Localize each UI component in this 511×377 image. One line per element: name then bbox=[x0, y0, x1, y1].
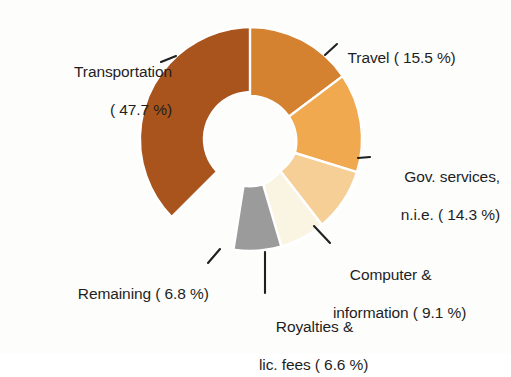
slice-label-transportation-line2: ( 47.7 %) bbox=[24, 100, 172, 119]
slice-label-royalties-lic-fees: Royalties & lic. fees ( 6.6 %) bbox=[259, 298, 368, 377]
slice-label-gov-services: Gov. services, n.i.e. ( 14.3 %) bbox=[360, 148, 500, 262]
slice-label-remaining: Remaining ( 6.8 %) bbox=[61, 265, 209, 322]
slice-label-gov-services-line1: Gov. services, bbox=[404, 168, 500, 185]
slice-label-royalties-lic-fees-line2: lic. fees ( 6.6 %) bbox=[259, 355, 368, 374]
slice-label-transportation: Transportation ( 47.7 %) bbox=[24, 43, 172, 157]
slice-label-travel-line1: Travel ( 15.5 %) bbox=[348, 49, 456, 66]
leader-line-computer-information bbox=[314, 226, 330, 243]
slice-label-royalties-lic-fees-line1: Royalties & bbox=[276, 318, 353, 335]
slice-label-gov-services-line2: n.i.e. ( 14.3 %) bbox=[360, 205, 500, 224]
slice-label-computer-information-line1: Computer & bbox=[350, 266, 432, 283]
slice-label-travel: Travel ( 15.5 %) bbox=[331, 29, 456, 86]
slice-label-remaining-line1: Remaining ( 6.8 %) bbox=[78, 285, 209, 302]
leader-line-remaining bbox=[208, 249, 220, 263]
slice-label-transportation-line1: Transportation bbox=[74, 63, 172, 80]
